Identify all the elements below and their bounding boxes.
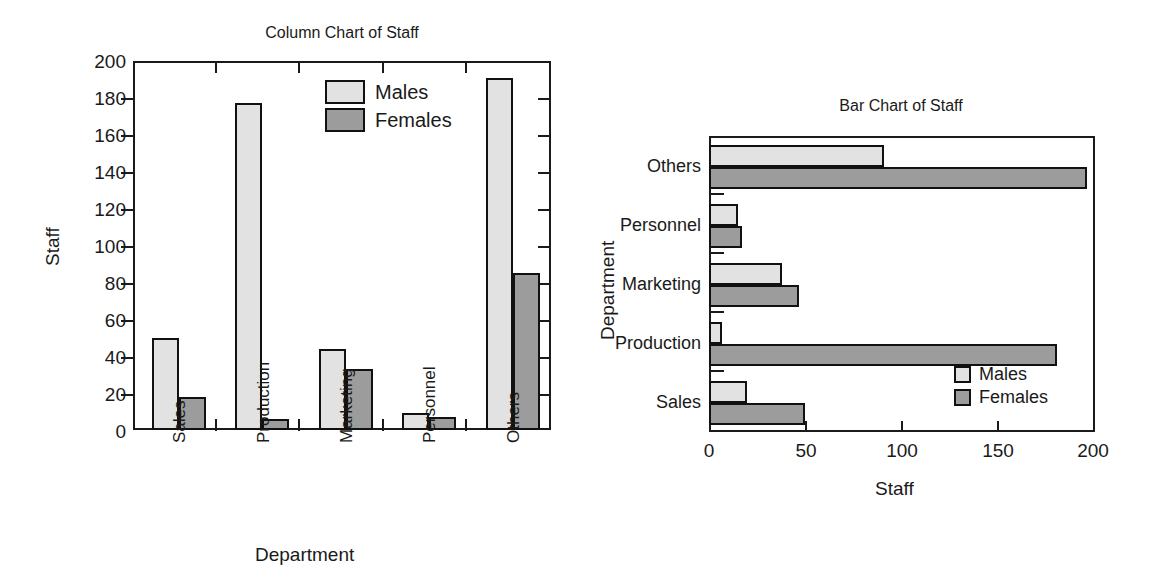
legend-label-females: Females [979,387,1048,408]
legend-swatch-females-icon [954,389,971,406]
x-tick-mark [382,419,384,431]
legend-label-females: Females [375,109,452,132]
bar-chart-y-axis-label: Department [597,241,619,340]
x-category-label-others: Others [504,392,524,443]
y-tick-mark [711,252,724,254]
y-tick-label: 160 [86,126,126,145]
column-chart-x-axis-label: Department [255,544,354,566]
column-chart-title: Column Chart of Staff [133,24,551,42]
y-tick-mark [121,320,135,322]
x-tick-mark [901,421,903,432]
y-tick-mark-right [538,135,551,137]
y-tick-mark [121,135,135,137]
y-category-label-sales: Sales [549,392,701,413]
column-chart-y-axis-label: Staff [42,227,64,266]
y-tick-mark-right [538,246,551,248]
x-category-label-production: Production [254,362,274,443]
y-tick-mark [121,283,135,285]
bar-others-males [486,78,513,430]
x-tick-mark [465,419,467,431]
y-tick-label: 120 [86,200,126,219]
y-tick-label: 180 [86,89,126,108]
hbar-production-males [709,322,722,344]
y-tick-mark-right [538,98,551,100]
y-category-label-marketing: Marketing [549,274,701,295]
x-tick-mark [997,421,999,432]
legend-item-females: Females [325,108,452,132]
x-tick-mark-top [465,61,467,73]
x-tick-mark [805,421,807,432]
legend-swatch-males-icon [954,366,971,383]
y-tick-label: 0 [92,422,126,441]
x-tick-mark-top [382,61,384,73]
hbar-others-males [709,145,884,167]
hbar-marketing-females [709,285,799,307]
column-chart-legend: Males Females [325,80,452,136]
x-category-label-sales: Sales [170,400,190,443]
y-tick-mark [711,311,724,313]
x-tick-mark [298,419,300,431]
bar-chart-x-axis-label: Staff [875,478,914,500]
x-tick-label: 50 [786,441,826,460]
x-tick-mark-top [215,61,217,73]
y-tick-mark [121,357,135,359]
x-category-label-personnel: Personnel [420,366,440,443]
y-tick-label: 200 [86,52,126,71]
x-tick-label: 150 [973,441,1023,460]
x-category-label-marketing: Marketing [337,368,357,443]
legend-item-males: Males [954,364,1048,385]
y-category-label-others: Others [549,156,701,177]
x-tick-mark [215,419,217,431]
bar-chart-title: Bar Chart of Staff [709,97,1093,115]
hbar-personnel-males [709,204,738,226]
legend-swatch-females-icon [325,108,365,132]
x-tick-label: 0 [689,441,729,460]
y-tick-mark [121,246,135,248]
hbar-production-females [709,344,1057,366]
hbar-others-females [709,167,1087,189]
legend-label-males: Males [375,81,428,104]
y-tick-mark [121,394,135,396]
legend-label-males: Males [979,364,1027,385]
y-tick-mark [121,209,135,211]
y-tick-mark [121,172,135,174]
column-chart-figure: Column Chart of Staff 200 180 160 140 12… [0,0,585,586]
hbar-sales-males [709,381,747,403]
hbar-personnel-females [709,226,742,248]
legend-item-males: Males [325,80,452,104]
y-tick-mark [121,98,135,100]
hbar-sales-females [709,403,805,425]
hbar-marketing-males [709,263,782,285]
y-category-label-production: Production [549,333,701,354]
bar-chart-figure: Bar Chart of Staff 0 50 100 150 200 [585,0,1171,586]
bar-chart-legend: Males Females [954,364,1048,408]
legend-item-females: Females [954,387,1048,408]
x-tick-label: 200 [1068,441,1118,460]
y-tick-mark [711,193,724,195]
y-tick-label: 140 [86,163,126,182]
y-tick-label: 100 [86,237,126,256]
legend-swatch-males-icon [325,80,365,104]
y-tick-mark [711,370,724,372]
x-tick-mark-top [298,61,300,73]
x-tick-label: 100 [877,441,927,460]
y-category-label-personnel: Personnel [549,215,701,236]
y-tick-mark-right [538,209,551,211]
